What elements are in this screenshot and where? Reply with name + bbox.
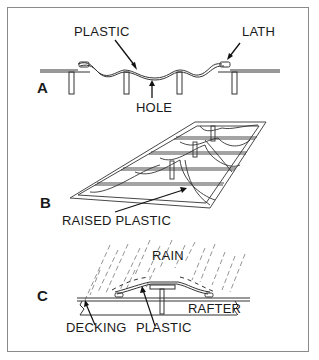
panel-b-plastic-curve-5 [90, 165, 160, 192]
panel-letter-c: C [37, 287, 48, 304]
label-plastic-a: PLASTIC [74, 24, 130, 39]
roof-repair-diagram [0, 0, 319, 360]
panel-a-rafter-4 [232, 72, 237, 94]
label-rain: RAIN [152, 248, 184, 263]
panel-b-plastic-curve-4 [135, 160, 215, 200]
panel-a-rafter-3 [177, 72, 182, 94]
label-decking: DECKING [66, 320, 127, 335]
panel-b-roof-inner [78, 126, 259, 203]
panel-letter-a: A [37, 79, 48, 96]
panel-b-raised-plastic-arrowhead [180, 187, 187, 193]
panel-b-plastic-curve-3 [160, 145, 240, 166]
panel-a-drawing [40, 40, 280, 98]
panel-a-plastic-sheet [78, 63, 222, 78]
label-plastic-c: PLASTIC [136, 320, 192, 335]
label-raised-plastic: RAISED PLASTIC [62, 213, 171, 228]
panel-a-rafter-1 [69, 72, 74, 94]
panel-a-rafter-2 [124, 72, 129, 94]
panel-a-plastic-arrow [115, 40, 135, 66]
panel-c-rafter-break-left [80, 301, 84, 315]
label-hole: HOLE [136, 100, 172, 115]
label-rafter: RAFTER [188, 301, 241, 316]
panel-a-hole-arrowhead [149, 80, 155, 86]
panel-b-plastic-curve-6 [185, 160, 210, 205]
label-lath: LATH [242, 24, 275, 39]
panel-c-center-board [150, 285, 175, 289]
panel-a-lath-arrow [230, 43, 240, 56]
panel-b-drawing [70, 122, 266, 212]
panel-letter-b: B [40, 194, 51, 211]
panel-a-plastic-arrowhead [131, 62, 137, 70]
